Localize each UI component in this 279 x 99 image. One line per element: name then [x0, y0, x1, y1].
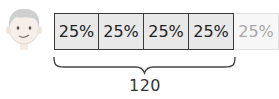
tape-diagram: 25% 25% 25% 25% 25%: [54, 13, 279, 50]
boy-face-icon: [4, 6, 44, 52]
segment-4: 25%: [189, 13, 234, 50]
segment-1: 25%: [54, 13, 99, 50]
segment-2: 25%: [99, 13, 144, 50]
segment-5-faded: 25%: [234, 13, 279, 50]
segment-3: 25%: [144, 13, 189, 50]
curly-brace-icon: [52, 55, 237, 75]
brace-total-label: 120: [129, 76, 161, 95]
